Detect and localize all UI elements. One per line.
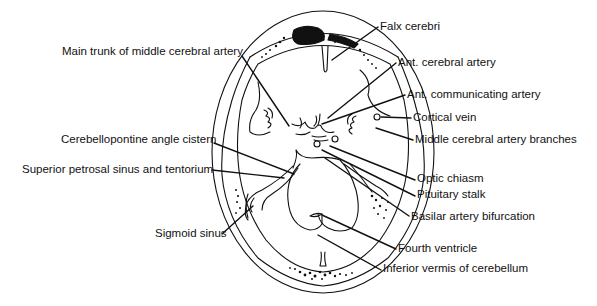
label-pituitary-stalk: Pituitary stalk xyxy=(417,188,485,201)
brainstem-cerebellum xyxy=(245,150,388,266)
label-falx-cerebri: Falx cerebri xyxy=(380,20,440,33)
label-optic-chiasm: Optic chiasm xyxy=(417,172,483,185)
label-ant-cerebral-artery: Ant. cerebral artery xyxy=(398,56,496,69)
frontal-sinus xyxy=(261,26,377,72)
label-basilar-artery-bifurcation: Basilar artery bifurcation xyxy=(411,210,535,223)
label-superior-petrosal-sinus: Superior petrosal sinus and tentorium xyxy=(22,163,213,176)
label-ant-communicating-artery: Ant. communicating artery xyxy=(407,88,541,101)
label-cortical-vein: Cortical vein xyxy=(413,111,476,124)
label-fourth-ventricle: Fourth ventricle xyxy=(398,242,477,255)
label-inferior-vermis: Inferior vermis of cerebellum xyxy=(383,262,528,275)
label-mca-branches: Middle cerebral artery branches xyxy=(415,133,577,146)
label-cerebellopontine-angle-cistern: Cerebellopontine angle cistern xyxy=(61,133,216,146)
circle-of-willis xyxy=(292,114,338,147)
label-main-trunk-mca: Main trunk of middle cerebral artery xyxy=(62,45,243,58)
label-sigmoid-sinus: Sigmoid sinus xyxy=(155,227,227,240)
